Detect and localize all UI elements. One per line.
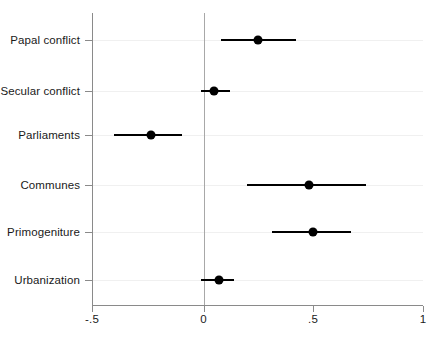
- gridline: [92, 232, 423, 233]
- y-axis-tick: [85, 135, 92, 136]
- y-axis-label-parliaments: Parliaments: [18, 129, 80, 141]
- gridline: [92, 91, 423, 92]
- y-axis-line: [92, 13, 93, 305]
- y-axis-label-papal-conflict: Papal conflict: [10, 34, 80, 46]
- x-axis-tick-label-half: .5: [293, 313, 333, 325]
- y-axis-tick: [85, 232, 92, 233]
- x-axis-tick-label-zero: 0: [184, 313, 224, 325]
- x-axis-tick-label-neg-half: -.5: [72, 313, 112, 325]
- point-estimate-marker: [214, 276, 223, 285]
- point-estimate-marker: [309, 228, 318, 237]
- x-axis-line: [92, 305, 423, 306]
- point-estimate-marker: [210, 87, 219, 96]
- y-axis-label-primogeniture: Primogeniture: [7, 226, 80, 238]
- x-axis-tick: [204, 306, 205, 312]
- point-estimate-marker: [304, 181, 313, 190]
- x-axis-tick: [92, 306, 93, 312]
- y-axis-label-communes: Communes: [20, 179, 80, 191]
- y-axis-label-urbanization: Urbanization: [14, 274, 80, 286]
- y-axis-tick: [85, 40, 92, 41]
- y-axis-tick: [85, 91, 92, 92]
- y-axis-tick: [85, 185, 92, 186]
- x-axis-tick: [423, 306, 424, 312]
- point-estimate-marker: [146, 131, 155, 140]
- point-estimate-marker: [254, 36, 263, 45]
- zero-reference-line: [204, 13, 205, 305]
- coefficient-plot: Papal conflict Secular conflict Parliame…: [0, 0, 438, 340]
- x-axis-tick: [313, 306, 314, 312]
- x-axis-tick-label-one: 1: [403, 313, 438, 325]
- gridline: [92, 280, 423, 281]
- y-axis-tick: [85, 280, 92, 281]
- y-axis-label-secular-conflict: Secular conflict: [0, 85, 80, 97]
